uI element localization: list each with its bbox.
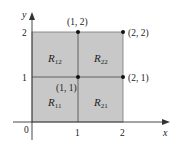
y-tick-1: 1 <box>22 73 27 83</box>
y-axis-arrow-icon <box>29 12 35 20</box>
x-tick-1: 1 <box>75 128 80 138</box>
x-axis-arrow-icon <box>162 119 170 125</box>
diagram-canvas: y x 0 1 2 1 2 R12 R22 R11 R21 (1, 2) (2,… <box>0 0 181 148</box>
point-1-1 <box>76 75 80 79</box>
point-label-2-1: (2, 1) <box>128 73 149 84</box>
x-tick-2: 2 <box>120 128 125 138</box>
point-label-2-2: (2, 2) <box>128 28 149 39</box>
point-1-2 <box>76 30 80 34</box>
point-label-1-2: (1, 2) <box>67 17 88 28</box>
point-2-2 <box>121 30 125 34</box>
x-axis-label: x <box>162 127 168 138</box>
point-label-1-1: (1, 1) <box>56 83 77 94</box>
y-axis-label: y <box>21 9 27 20</box>
point-2-1 <box>121 75 125 79</box>
origin-label: 0 <box>24 125 29 135</box>
y-tick-2: 2 <box>22 28 27 38</box>
